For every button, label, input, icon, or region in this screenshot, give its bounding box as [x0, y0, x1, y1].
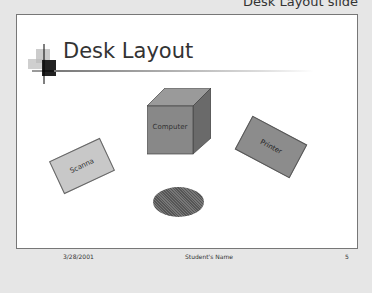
footer-name: Student's Name [185, 253, 233, 260]
title-underline [54, 70, 314, 72]
slide-caption: Desk Layout slide [243, 0, 358, 9]
computer-label: Computer [150, 123, 190, 131]
slide-title: Desk Layout [63, 39, 193, 63]
footer-date: 3/28/2001 [63, 253, 94, 260]
footer-page: 5 [345, 253, 349, 260]
disk-ellipse [153, 187, 204, 217]
